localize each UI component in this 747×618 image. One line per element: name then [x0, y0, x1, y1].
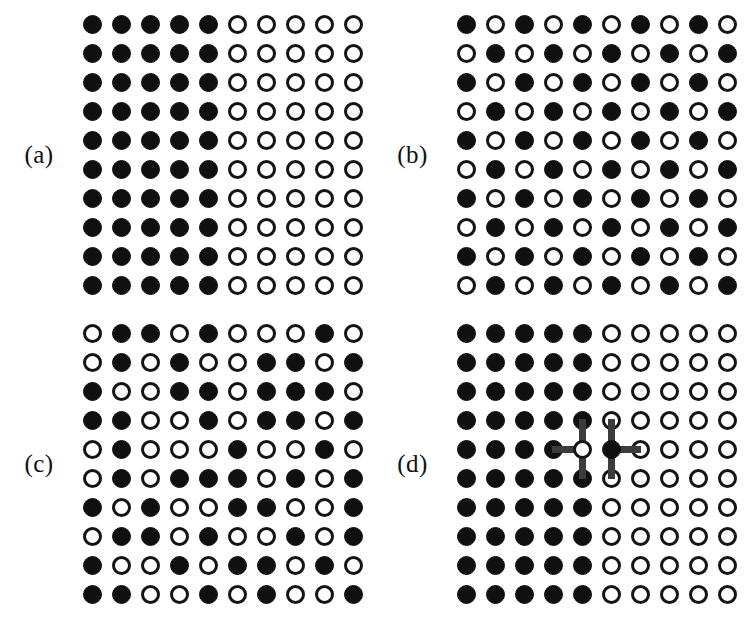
lattice-site: [539, 10, 568, 39]
lattice-site: [194, 39, 223, 68]
lattice-site: [194, 155, 223, 184]
site-open-icon: [83, 353, 102, 372]
lattice-site: [713, 406, 742, 435]
lattice-site: [568, 522, 597, 551]
lattice-site: [223, 97, 252, 126]
site-filled-icon: [631, 247, 650, 266]
site-filled-icon: [544, 324, 563, 343]
lattice-site: [597, 242, 626, 271]
lattice-site: [165, 435, 194, 464]
site-open-icon: [515, 160, 534, 179]
lattice-site: [339, 68, 368, 97]
lattice-site: [713, 184, 742, 213]
site-open-icon: [602, 353, 621, 372]
site-open-icon: [544, 73, 563, 92]
site-filled-icon: [141, 102, 160, 121]
site-open-icon: [660, 15, 679, 34]
lattice-site: [223, 493, 252, 522]
site-filled-icon: [83, 276, 102, 295]
site-open-icon: [689, 556, 708, 575]
lattice-site: [339, 155, 368, 184]
site-open-icon: [602, 131, 621, 150]
lattice-b: [452, 10, 742, 300]
lattice-site: [539, 97, 568, 126]
site-open-icon: [170, 527, 189, 546]
site-open-icon: [718, 527, 737, 546]
site-filled-icon: [515, 73, 534, 92]
lattice-site: [281, 580, 310, 609]
lattice-site: [597, 39, 626, 68]
lattice-site: [626, 319, 655, 348]
site-open-icon: [315, 44, 334, 63]
lattice-site: [310, 68, 339, 97]
lattice-site: [136, 10, 165, 39]
site-open-icon: [286, 440, 305, 459]
site-open-icon: [689, 440, 708, 459]
lattice-site: [223, 10, 252, 39]
site-open-icon: [486, 189, 505, 208]
site-filled-icon: [141, 73, 160, 92]
lattice-site: [78, 68, 107, 97]
site-open-icon: [486, 73, 505, 92]
lattice-c: [78, 319, 368, 609]
lattice-site: [310, 155, 339, 184]
lattice-site: [310, 406, 339, 435]
lattice-site: [597, 10, 626, 39]
site-filled-icon: [573, 556, 592, 575]
site-filled-icon: [573, 527, 592, 546]
site-open-icon: [689, 469, 708, 488]
lattice-site: [78, 39, 107, 68]
lattice-site: [684, 68, 713, 97]
lattice-site: [165, 319, 194, 348]
lattice-site: [452, 551, 481, 580]
lattice-site: [78, 319, 107, 348]
site-filled-icon: [486, 218, 505, 237]
lattice-site: [626, 97, 655, 126]
lattice-site: [107, 10, 136, 39]
site-filled-icon: [344, 411, 363, 430]
site-open-icon: [660, 411, 679, 430]
lattice-site: [281, 242, 310, 271]
lattice-site: [684, 97, 713, 126]
lattice-site: [310, 435, 339, 464]
lattice-site: [136, 551, 165, 580]
lattice-site: [626, 126, 655, 155]
site-filled-icon: [112, 15, 131, 34]
site-open-icon: [228, 189, 247, 208]
site-open-icon: [141, 440, 160, 459]
lattice-site: [481, 10, 510, 39]
lattice-site: [223, 68, 252, 97]
lattice-site: [452, 406, 481, 435]
lattice-site: [281, 319, 310, 348]
lattice-grid-b: [452, 10, 742, 300]
lattice-site: [713, 493, 742, 522]
site-open-icon: [344, 556, 363, 575]
lattice-site: [107, 242, 136, 271]
site-filled-icon: [257, 556, 276, 575]
lattice-site: [252, 242, 281, 271]
site-open-icon: [228, 585, 247, 604]
site-filled-icon: [141, 276, 160, 295]
lattice-site: [165, 580, 194, 609]
lattice-site: [339, 319, 368, 348]
lattice-site: [510, 377, 539, 406]
lattice-site: [626, 39, 655, 68]
site-open-icon: [257, 15, 276, 34]
site-filled-icon: [83, 382, 102, 401]
site-open-icon: [344, 131, 363, 150]
site-open-icon: [457, 160, 476, 179]
lattice-site: [281, 522, 310, 551]
site-filled-icon: [457, 324, 476, 343]
lattice-site: [310, 39, 339, 68]
lattice-site: [684, 184, 713, 213]
lattice-site: [684, 319, 713, 348]
site-open-icon: [718, 469, 737, 488]
site-open-icon: [141, 469, 160, 488]
site-open-icon: [573, 218, 592, 237]
site-filled-icon: [718, 102, 737, 121]
site-open-icon: [660, 556, 679, 575]
site-open-icon: [286, 556, 305, 575]
site-open-icon: [660, 440, 679, 459]
lattice-site-exchanged: [597, 435, 626, 464]
lattice-site: [136, 155, 165, 184]
